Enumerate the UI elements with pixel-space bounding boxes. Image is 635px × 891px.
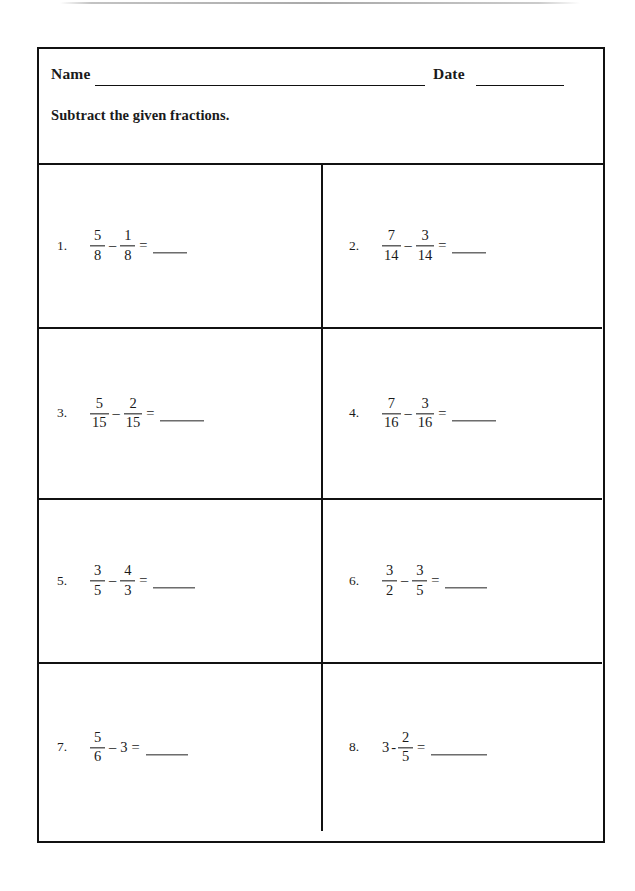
problem-expression-4: 4. 7 16 – 3 16 = <box>349 396 496 431</box>
problem-expression-5: 5. 3 5 – 4 3 = <box>57 563 195 598</box>
answer-blank-8[interactable] <box>431 754 487 755</box>
fraction-bar <box>398 747 413 748</box>
problem-expression-8: 8. 3 - 2 5 = <box>349 730 487 765</box>
numerator: 4 <box>122 563 133 579</box>
minus-operator-2: – <box>402 238 415 255</box>
minus-operator-3: – <box>110 405 123 422</box>
fraction-left-1: 5 8 <box>90 228 105 263</box>
fraction-bar <box>382 581 397 582</box>
problem-expression-3: 3. 5 15 – 2 15 = <box>57 396 204 431</box>
numerator: 2 <box>127 396 138 412</box>
page-top-scan-line <box>60 2 580 4</box>
numerator: 3 <box>419 228 430 244</box>
date-write-in-line[interactable] <box>476 85 564 86</box>
problem-expression-1: 1. 5 8 – 1 8 = <box>57 228 187 263</box>
problem-cell-7: 7. 5 6 – 3 = <box>39 664 323 831</box>
name-label: Name <box>51 65 91 83</box>
fraction-bar <box>382 246 401 247</box>
denominator: 5 <box>92 583 103 599</box>
problem-grid: 1. 5 8 – 1 8 = 2. 7 <box>39 165 603 831</box>
equals-sign-5: = <box>136 573 149 590</box>
denominator: 5 <box>400 750 411 766</box>
fraction-right-4: 3 16 <box>416 396 435 431</box>
denominator: 8 <box>92 248 103 264</box>
numerator: 3 <box>419 396 430 412</box>
whole-number-right-7: 3 <box>119 739 128 756</box>
denominator: 8 <box>122 248 133 264</box>
answer-blank-4[interactable] <box>452 420 496 421</box>
fraction-bar <box>90 747 105 748</box>
equals-sign-4: = <box>435 405 448 422</box>
answer-blank-3[interactable] <box>160 420 204 421</box>
equals-sign-2: = <box>435 238 448 255</box>
fraction-left-6: 3 2 <box>382 563 397 598</box>
problem-number-5: 5. <box>57 573 89 589</box>
instruction-text: Subtract the given fractions. <box>51 107 230 124</box>
fraction-bar <box>124 413 143 414</box>
fraction-bar <box>90 581 105 582</box>
problem-expression-6: 6. 3 2 – 3 5 = <box>349 563 487 598</box>
denominator: 6 <box>92 750 103 766</box>
numerator: 7 <box>386 396 397 412</box>
fraction-bar <box>382 413 401 414</box>
fraction-bar <box>416 246 435 247</box>
problem-number-8: 8. <box>349 740 381 756</box>
name-write-in-line[interactable] <box>95 85 425 86</box>
denominator: 16 <box>382 416 401 432</box>
answer-blank-6[interactable] <box>445 588 487 589</box>
minus-operator-1: – <box>106 238 119 255</box>
denominator: 16 <box>416 416 435 432</box>
fraction-left-7: 5 6 <box>90 730 105 765</box>
fraction-right-1: 1 8 <box>120 228 135 263</box>
problem-cell-4: 4. 7 16 – 3 16 = <box>323 329 602 500</box>
worksheet-header: Name Date Subtract the given fractions. <box>39 49 603 165</box>
numerator: 5 <box>92 228 103 244</box>
answer-blank-1[interactable] <box>153 253 187 254</box>
minus-operator-7: – <box>106 739 119 756</box>
fraction-left-3: 5 15 <box>90 396 109 431</box>
denominator: 3 <box>122 583 133 599</box>
date-label: Date <box>433 65 465 83</box>
numerator: 2 <box>400 730 411 746</box>
problem-expression-7: 7. 5 6 – 3 = <box>57 730 188 765</box>
minus-operator-8: - <box>390 739 397 756</box>
answer-blank-2[interactable] <box>452 253 486 254</box>
problem-cell-8: 8. 3 - 2 5 = <box>323 664 602 831</box>
numerator: 7 <box>386 228 397 244</box>
fraction-right-2: 3 14 <box>416 228 435 263</box>
numerator: 5 <box>94 396 105 412</box>
fraction-bar <box>90 246 105 247</box>
problem-number-2: 2. <box>349 238 381 254</box>
problem-cell-6: 6. 3 2 – 3 5 = <box>323 500 602 664</box>
problem-cell-1: 1. 5 8 – 1 8 = <box>39 165 323 329</box>
denominator: 5 <box>414 583 425 599</box>
numerator: 3 <box>384 563 395 579</box>
denominator: 15 <box>90 416 109 432</box>
problem-number-7: 7. <box>57 740 89 756</box>
numerator: 3 <box>92 563 103 579</box>
answer-blank-5[interactable] <box>153 588 195 589</box>
fraction-left-5: 3 5 <box>90 563 105 598</box>
minus-operator-4: – <box>402 405 415 422</box>
problem-expression-2: 2. 7 14 – 3 14 = <box>349 228 486 263</box>
problem-cell-2: 2. 7 14 – 3 14 = <box>323 165 602 329</box>
problem-number-4: 4. <box>349 406 381 422</box>
denominator: 14 <box>382 248 401 264</box>
numerator: 5 <box>92 730 103 746</box>
minus-operator-5: – <box>106 573 119 590</box>
worksheet-table: Name Date Subtract the given fractions. … <box>37 47 605 843</box>
problem-number-1: 1. <box>57 238 89 254</box>
numerator: 1 <box>122 228 133 244</box>
fraction-bar <box>416 413 435 414</box>
equals-sign-6: = <box>428 573 441 590</box>
problem-number-6: 6. <box>349 573 381 589</box>
fraction-left-4: 7 16 <box>382 396 401 431</box>
minus-operator-6: – <box>398 573 411 590</box>
answer-blank-7[interactable] <box>146 754 188 755</box>
fraction-bar <box>412 581 427 582</box>
equals-sign-8: = <box>414 739 427 756</box>
equals-sign-3: = <box>143 405 156 422</box>
fraction-bar <box>120 581 135 582</box>
name-date-row: Name Date <box>39 65 603 91</box>
fraction-right-5: 4 3 <box>120 563 135 598</box>
